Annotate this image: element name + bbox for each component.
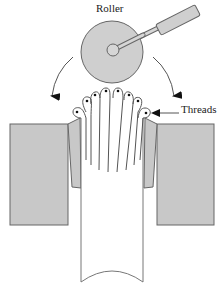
roller-thread-diagram: Roller Threads [0,0,221,293]
left-die-lip [68,118,81,188]
tube [81,118,143,282]
roller-hub [107,44,119,56]
right-die-block [157,124,214,225]
left-rotation-arrow [52,57,73,96]
left-die-block [10,124,68,225]
threads-pointer-arrowhead [151,109,160,117]
right-die-lip [144,118,157,188]
threads-label: Threads [181,103,216,115]
right-rotation-arrow [153,57,174,96]
roller-label: Roller [96,2,124,14]
